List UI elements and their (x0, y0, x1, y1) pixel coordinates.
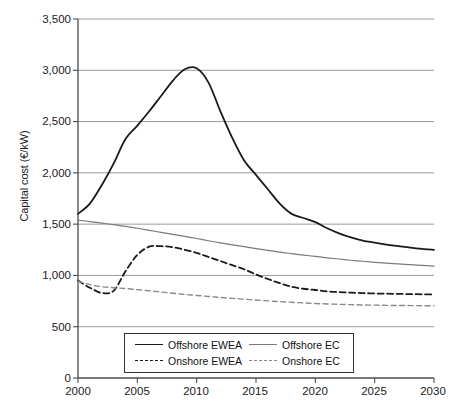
axis-lines (78, 19, 434, 378)
legend-label: Onshore EC (282, 355, 340, 367)
legend-swatch-solid-gray-icon (249, 340, 277, 350)
legend-item-onshore-ec: Onshore EC (249, 355, 340, 367)
legend-label: Offshore EWEA (168, 339, 242, 351)
x-tick-label: 2020 (293, 385, 337, 397)
x-tick-label: 2015 (233, 385, 277, 397)
data-series-group (78, 67, 434, 306)
legend-item-onshore-ewea: Onshore EWEA (135, 355, 242, 367)
x-tick-label: 2030 (411, 385, 451, 397)
legend-label: Onshore EWEA (168, 355, 242, 367)
x-tick-label: 2010 (174, 385, 218, 397)
legend-item-offshore-ewea: Offshore EWEA (135, 339, 242, 351)
legend-swatch-dashed-gray-icon (249, 356, 277, 366)
x-axis-ticks (78, 378, 434, 383)
x-tick-label: 2000 (56, 385, 100, 397)
x-tick-label: 2005 (115, 385, 159, 397)
y-axis-ticks (73, 19, 78, 378)
x-tick-label: 2025 (352, 385, 396, 397)
chart-legend: Offshore EWEA Offshore EC Onshore EWEA O… (124, 333, 354, 373)
series-line (78, 67, 434, 250)
legend-swatch-solid-black-icon (135, 340, 163, 350)
gridlines (78, 19, 434, 327)
legend-label: Offshore EC (282, 339, 340, 351)
series-line (78, 246, 434, 295)
legend-item-offshore-ec: Offshore EC (249, 339, 340, 351)
legend-swatch-dashed-black-icon (135, 356, 163, 366)
